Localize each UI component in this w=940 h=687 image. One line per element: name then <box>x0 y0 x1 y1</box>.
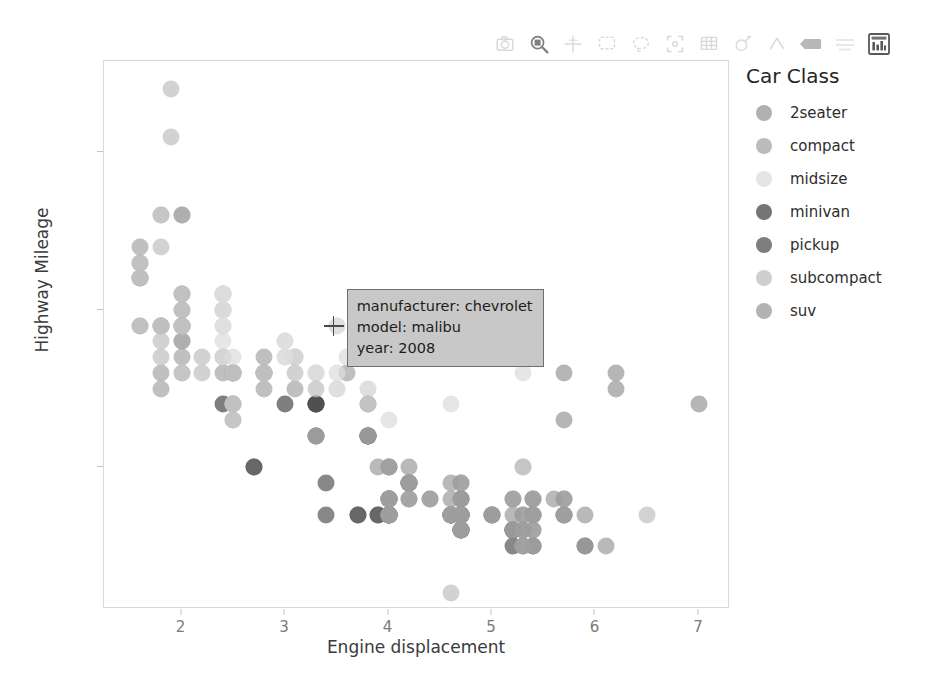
scatter-point[interactable] <box>173 349 190 366</box>
legend-item-midsize[interactable]: midsize <box>744 162 934 195</box>
crosshair-icon[interactable] <box>562 33 584 55</box>
scatter-point[interactable] <box>194 349 211 366</box>
scatter-point[interactable] <box>359 427 376 444</box>
save-icon[interactable] <box>494 33 516 55</box>
scatter-point[interactable] <box>163 128 180 145</box>
scatter-point[interactable] <box>256 380 273 397</box>
scatter-point[interactable] <box>132 270 149 287</box>
lasso-select-icon[interactable] <box>630 33 652 55</box>
pan-icon[interactable] <box>766 33 788 55</box>
scatter-point[interactable] <box>401 475 418 492</box>
scatter-point[interactable] <box>152 349 169 366</box>
scatter-point[interactable] <box>380 490 397 507</box>
scatter-point[interactable] <box>256 349 273 366</box>
scatter-point[interactable] <box>380 459 397 476</box>
scatter-point[interactable] <box>287 380 304 397</box>
scatter-point[interactable] <box>152 207 169 224</box>
scatter-point[interactable] <box>277 349 294 366</box>
legend-item-minivan[interactable]: minivan <box>744 195 934 228</box>
scatter-point[interactable] <box>152 333 169 350</box>
scatter-point[interactable] <box>639 506 656 523</box>
scatter-point[interactable] <box>452 506 469 523</box>
scatter-point[interactable] <box>504 522 521 539</box>
scatter-point[interactable] <box>194 364 211 381</box>
scatter-point[interactable] <box>328 364 345 381</box>
scatter-point[interactable] <box>246 459 263 476</box>
legend-item-pickup[interactable]: pickup <box>744 228 934 261</box>
scatter-point[interactable] <box>152 380 169 397</box>
scatter-point[interactable] <box>556 364 573 381</box>
scatter-point[interactable] <box>690 396 707 413</box>
scatter-point[interactable] <box>515 459 532 476</box>
scatter-point[interactable] <box>515 506 532 523</box>
scatter-point[interactable] <box>173 364 190 381</box>
scatter-point[interactable] <box>608 380 625 397</box>
scatter-point[interactable] <box>318 475 335 492</box>
scatter-point[interactable] <box>132 238 149 255</box>
scatter-point[interactable] <box>556 506 573 523</box>
scatter-point[interactable] <box>546 490 563 507</box>
scatter-point[interactable] <box>515 538 532 555</box>
scatter-point[interactable] <box>452 475 469 492</box>
scatter-point[interactable] <box>359 396 376 413</box>
scatter-point[interactable] <box>277 333 294 350</box>
tap-icon[interactable] <box>834 33 856 55</box>
scatter-point[interactable] <box>442 396 459 413</box>
scatter-point[interactable] <box>608 364 625 381</box>
scatter-point[interactable] <box>484 506 501 523</box>
scatter-point[interactable] <box>401 490 418 507</box>
hover-icon[interactable] <box>800 33 822 55</box>
box-zoom-icon[interactable] <box>528 33 550 55</box>
scatter-point[interactable] <box>214 349 231 366</box>
wheel-zoom-icon[interactable] <box>732 33 754 55</box>
scatter-point[interactable] <box>173 317 190 334</box>
scatter-point[interactable] <box>525 490 542 507</box>
scatter-point[interactable] <box>173 333 190 350</box>
scatter-point[interactable] <box>152 317 169 334</box>
scatter-point[interactable] <box>308 396 325 413</box>
legend-item-suv[interactable]: suv <box>744 294 934 327</box>
scatter-point[interactable] <box>163 81 180 98</box>
scatter-point[interactable] <box>214 317 231 334</box>
legend-item-subcompact[interactable]: subcompact <box>744 261 934 294</box>
scatter-point[interactable] <box>504 490 521 507</box>
scatter-point[interactable] <box>225 364 242 381</box>
scatter-point[interactable] <box>173 286 190 303</box>
scatter-point[interactable] <box>401 459 418 476</box>
scatter-point[interactable] <box>328 380 345 397</box>
scatter-point[interactable] <box>349 506 366 523</box>
scatter-point[interactable] <box>256 364 273 381</box>
scatter-point[interactable] <box>318 506 335 523</box>
scatter-point[interactable] <box>577 538 594 555</box>
scatter-point[interactable] <box>173 301 190 318</box>
scatter-point[interactable] <box>152 238 169 255</box>
scatter-point[interactable] <box>556 412 573 429</box>
box-select-icon[interactable] <box>596 33 618 55</box>
scatter-point[interactable] <box>442 490 459 507</box>
scatter-point[interactable] <box>287 364 304 381</box>
reset-icon[interactable] <box>664 33 686 55</box>
legend-item-compact[interactable]: compact <box>744 129 934 162</box>
scatter-point[interactable] <box>380 412 397 429</box>
scatter-point[interactable] <box>132 254 149 271</box>
scatter-point[interactable] <box>421 490 438 507</box>
scatter-point[interactable] <box>577 506 594 523</box>
scatter-point[interactable] <box>277 396 294 413</box>
scatter-point[interactable] <box>152 364 169 381</box>
scatter-point[interactable] <box>214 286 231 303</box>
scatter-point[interactable] <box>308 364 325 381</box>
scatter-point[interactable] <box>359 380 376 397</box>
zoom-out-icon[interactable] <box>698 33 720 55</box>
scatter-point[interactable] <box>214 333 231 350</box>
scatter-point[interactable] <box>225 396 242 413</box>
scatter-point[interactable] <box>132 317 149 334</box>
bokeh-logo-icon[interactable] <box>868 33 890 55</box>
scatter-point[interactable] <box>214 301 231 318</box>
scatter-point[interactable] <box>380 506 397 523</box>
scatter-point[interactable] <box>597 538 614 555</box>
scatter-point[interactable] <box>225 412 242 429</box>
legend-item-2seater[interactable]: 2seater <box>744 96 934 129</box>
scatter-point[interactable] <box>452 522 469 539</box>
scatter-point[interactable] <box>442 585 459 602</box>
scatter-point[interactable] <box>308 427 325 444</box>
